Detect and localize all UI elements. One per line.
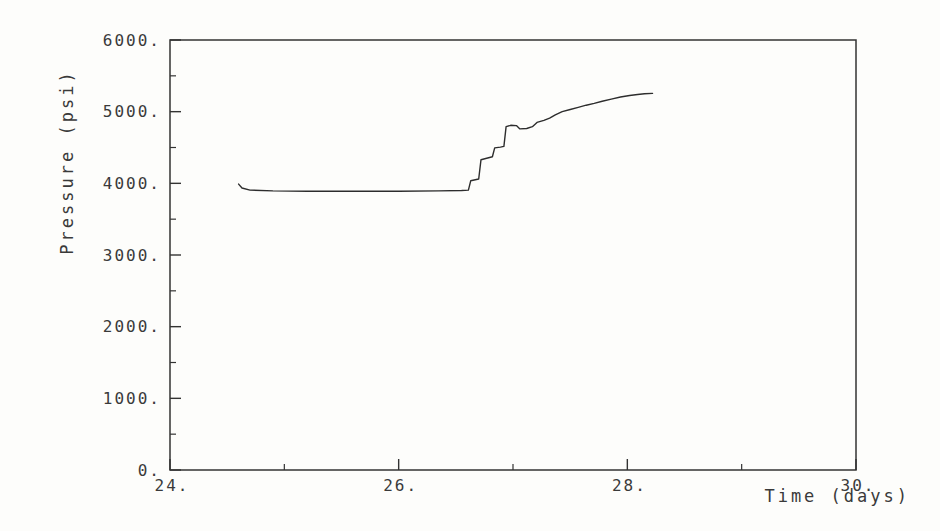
y-tick-label: 2000.: [103, 317, 161, 336]
plot-frame: [170, 40, 856, 470]
y-tick-label: 6000.: [103, 31, 161, 50]
x-tick-label: 26.: [383, 476, 418, 495]
y-axis-title: Pressure (psi): [57, 67, 77, 257]
y-tick-label: 1000.: [103, 389, 161, 408]
pressure-time-chart: 0.1000.2000.3000.4000.5000.6000.24.26.28…: [0, 0, 940, 531]
y-tick-label: 5000.: [103, 102, 161, 121]
x-tick-label: 28.: [612, 476, 647, 495]
x-tick-label: 24.: [155, 476, 190, 495]
y-tick-label: 3000.: [103, 246, 161, 265]
page-root: 0.1000.2000.3000.4000.5000.6000.24.26.28…: [0, 0, 940, 531]
y-tick-label: 4000.: [103, 174, 161, 193]
pressure-series-line: [239, 93, 653, 191]
x-axis-title: Time (days): [730, 486, 910, 506]
